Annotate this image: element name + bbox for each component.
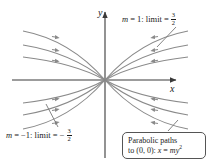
annotation-bottom-fraction: 3 2: [67, 128, 72, 143]
curve-ul-1: [23, 31, 105, 80]
callout-line-2-prefix: to (0, 0):: [128, 146, 158, 155]
curves-upper-right: [105, 31, 188, 80]
curve-ll-2: [23, 80, 105, 115]
x-axis-label: x: [170, 84, 174, 94]
curve-ur-2: [105, 45, 188, 80]
curve-ll-3: [23, 80, 105, 103]
leader-line-bottom: [46, 104, 58, 127]
curve-lr-3: [105, 80, 188, 103]
annotation-top-text: = 1: limit =: [130, 15, 169, 24]
callout-equation-equals: =: [161, 146, 170, 155]
curves-lower-left: [23, 80, 105, 129]
annotation-top-numerator: 3: [171, 12, 176, 19]
curve-ul-2: [23, 45, 105, 80]
annotation-bottom-denominator: 2: [67, 135, 72, 143]
curve-ul-3: [23, 57, 105, 80]
annotation-bottom: m = −1: limit = − 3 2: [6, 128, 72, 143]
callout-line-1: Parabolic paths: [128, 136, 201, 146]
y-axis-label: y: [98, 8, 102, 18]
callout-equation-my: my: [170, 146, 179, 155]
parabolic-paths-figure: y x m = 1: limit = 3 2 m = −1: limit = −…: [0, 0, 213, 165]
curve-ur-3: [105, 57, 188, 80]
annotation-bottom-numerator: 3: [67, 128, 72, 135]
callout-box: Parabolic paths to (0, 0): x = my2: [122, 132, 206, 159]
curve-lr-2: [105, 80, 188, 115]
annotation-top: m = 1: limit = 3 2: [122, 12, 176, 27]
annotation-bottom-variable: m: [6, 131, 12, 140]
annotation-top-fraction: 3 2: [171, 12, 176, 27]
leader-line-callout: [168, 120, 178, 131]
annotation-top-variable: m: [122, 15, 128, 24]
curves-lower-right: [105, 80, 188, 129]
curves-upper-left: [23, 31, 105, 80]
curve-ll-1: [23, 80, 105, 129]
annotation-top-denominator: 2: [171, 19, 176, 27]
leader-line-top: [157, 27, 176, 47]
annotation-bottom-text: = −1: limit = −: [14, 131, 64, 140]
callout-line-2: to (0, 0): x = my2: [128, 146, 201, 156]
callout-equation-exponent: 2: [179, 144, 182, 150]
